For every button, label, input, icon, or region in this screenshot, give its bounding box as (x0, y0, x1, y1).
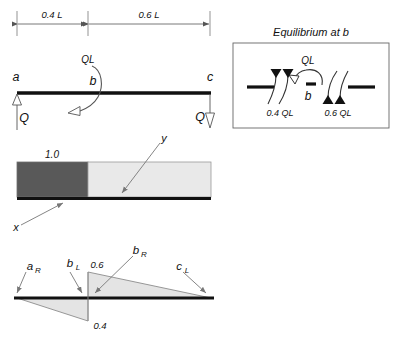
eq-applied-moment-label: QL (301, 55, 314, 66)
eq-node-b-label: b (305, 89, 312, 103)
moment-label-b-left-sub: L (76, 263, 80, 272)
x-axis-arrow (21, 203, 63, 225)
c-left-leader-arrow (183, 272, 206, 293)
moment-positive-triangle (88, 272, 211, 298)
moment-negative-triangle (17, 298, 88, 321)
beam-node-c-label: c (207, 70, 214, 84)
engineering-figure: 0.4 L 0.6 L a b c Q Q (0, 0, 394, 342)
figure-root: 0.4 L 0.6 L a b c Q Q (0, 0, 394, 342)
moment-label-a-right: a (27, 260, 33, 272)
reaction-left-arrowhead (13, 94, 22, 105)
eq-left-moment-label: 0.4 QL (266, 108, 293, 118)
y-axis-label: y (160, 132, 168, 144)
stiffness-bar-light-segment (88, 162, 211, 197)
beam-node-b-label: b (90, 74, 97, 88)
equilibrium-box-group: Equilibrium at b b QL 0.4 QL (233, 26, 389, 128)
stiffness-bar-value-label: 1.0 (45, 149, 59, 160)
moment-label-b-right: b (133, 244, 140, 256)
moment-label-c-left-sub: L (185, 266, 189, 275)
reaction-right-arrow (206, 94, 215, 128)
applied-moment-arc (80, 66, 101, 111)
moment-label-c-left: c (176, 260, 182, 272)
dim-label-right-span: 0.6 L (138, 9, 159, 20)
stiffness-bar-group: 1.0 x y (12, 132, 211, 233)
applied-moment-label: QL (81, 54, 94, 65)
applied-moment-arrowhead (68, 107, 80, 116)
a-right-leader-arrow (17, 272, 26, 293)
eq-right-moment-label: 0.6 QL (324, 108, 351, 118)
reaction-right-label: Q (195, 110, 205, 124)
moment-label-b-left: b (67, 257, 74, 269)
reaction-right-arrowhead (206, 113, 215, 128)
moment-label-b-right-sub: R (141, 250, 147, 259)
b-left-leader-arrow (70, 272, 82, 293)
equilibrium-box-title: Equilibrium at b (273, 26, 349, 38)
beam-node-a-label: a (13, 70, 20, 84)
stiffness-bar-dark-segment (17, 162, 88, 197)
moment-diagram-group: a R b L b R c L 0.6 0.4 (14, 244, 214, 331)
reaction-left-label: Q (19, 111, 29, 125)
x-axis-label: x (12, 221, 19, 233)
dimension-line-group: 0.4 L 0.6 L (17, 9, 210, 36)
moment-label-a-right-sub: R (35, 266, 41, 275)
beam-group: a b c Q Q QL (13, 54, 215, 130)
moment-peak-negative-label: 0.4 (93, 320, 106, 331)
dim-label-left-span: 0.4 L (41, 9, 62, 20)
moment-peak-positive-label: 0.6 (90, 259, 104, 270)
